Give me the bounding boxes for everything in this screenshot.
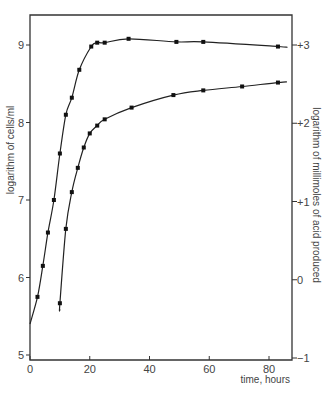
acid-data-point bbox=[240, 84, 244, 88]
cells-data-point bbox=[89, 45, 93, 49]
y2-tick-label: −1 bbox=[297, 352, 310, 364]
acid-data-point bbox=[88, 131, 92, 135]
cells-data-point bbox=[52, 198, 56, 202]
plot-frame bbox=[30, 15, 292, 360]
cells-data-point bbox=[103, 41, 107, 45]
cells-data-point bbox=[46, 231, 50, 235]
y-axis-left: 56789 bbox=[18, 39, 30, 361]
acid-data-point bbox=[76, 166, 80, 170]
acid-curve bbox=[59, 82, 286, 311]
y-axis-title: logarithm of cells/ml bbox=[5, 106, 16, 194]
acid-data-point bbox=[82, 146, 86, 150]
y2-tick-label: +1 bbox=[297, 196, 310, 208]
acid-data-point bbox=[171, 93, 175, 97]
y2-tick-label: 0 bbox=[297, 274, 303, 286]
cells-data-point bbox=[64, 113, 68, 117]
series-curves bbox=[30, 39, 287, 324]
x-tick-label: 0 bbox=[27, 363, 33, 375]
acid-data-point bbox=[58, 301, 62, 305]
cells-data-point bbox=[77, 68, 81, 72]
x-tick-label: 40 bbox=[143, 363, 155, 375]
y-axis-right: −10+1+2+3 bbox=[292, 39, 310, 364]
acid-data-point bbox=[276, 81, 280, 85]
y2-axis-title: logarithm of millimoles of acid produced bbox=[311, 107, 322, 283]
cells-data-point bbox=[41, 264, 45, 268]
y-tick-label: 8 bbox=[18, 117, 24, 129]
plot-border bbox=[30, 15, 292, 360]
growth-chart: 020406080 56789 −10+1+2+3 logarithm of c… bbox=[0, 0, 327, 395]
x-axis: 020406080 bbox=[27, 356, 275, 375]
acid-data-point bbox=[103, 117, 107, 121]
cells-data-point bbox=[35, 295, 39, 299]
x-axis-title: time, hours bbox=[241, 374, 290, 385]
y-tick-label: 9 bbox=[18, 39, 24, 51]
acid-data-point bbox=[130, 106, 134, 110]
acid-data-point bbox=[70, 190, 74, 194]
cells-data-point bbox=[58, 152, 62, 156]
cells-data-point bbox=[276, 45, 280, 49]
y2-tick-label: +2 bbox=[297, 117, 310, 129]
y-tick-label: 6 bbox=[18, 272, 24, 284]
x-tick-label: 60 bbox=[203, 363, 215, 375]
cells-data-point bbox=[174, 40, 178, 44]
cells-curve bbox=[30, 39, 287, 324]
cells-data-point bbox=[70, 96, 74, 100]
cells-data-point bbox=[127, 37, 131, 41]
x-tick-label: 20 bbox=[84, 363, 96, 375]
acid-data-point bbox=[201, 88, 205, 92]
series-markers bbox=[35, 37, 279, 305]
acid-data-point bbox=[95, 124, 99, 128]
y-tick-label: 5 bbox=[18, 349, 24, 361]
y2-tick-label: +3 bbox=[297, 39, 310, 51]
y-tick-label: 7 bbox=[18, 194, 24, 206]
acid-data-point bbox=[64, 227, 68, 231]
cells-data-point bbox=[95, 41, 99, 45]
cells-data-point bbox=[201, 40, 205, 44]
